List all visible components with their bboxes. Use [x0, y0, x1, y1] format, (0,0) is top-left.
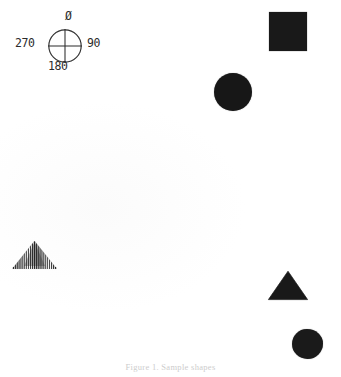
compass-rose: Ø 90 180 270: [12, 8, 118, 80]
filled-triangle-shape: [267, 270, 309, 301]
filled-triangle-icon: [267, 270, 309, 301]
compass-label-south: 180: [48, 61, 68, 73]
hatched-triangle-icon: [11, 240, 58, 270]
filled-circle-shape-lower: [292, 329, 323, 359]
figure-caption: Figure 1. Sample shapes: [0, 362, 341, 372]
compass-label-north: Ø: [65, 11, 72, 23]
compass-label-west: 270: [15, 38, 35, 50]
compass-label-east: 90: [87, 38, 100, 50]
filled-circle-shape-upper: [214, 73, 252, 111]
filled-square-shape: [269, 12, 307, 51]
hatched-triangle-shape: [11, 240, 58, 270]
figure-page: Ø 90 180 270: [0, 0, 341, 377]
